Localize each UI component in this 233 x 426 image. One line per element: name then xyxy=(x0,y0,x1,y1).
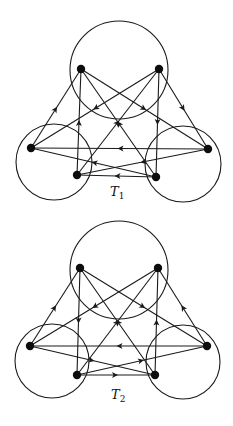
graph-label-subscript: 2 xyxy=(120,394,126,404)
arrowhead-icon xyxy=(91,302,99,310)
arrowhead-icon xyxy=(139,302,147,310)
vertex-d xyxy=(73,371,81,379)
vertex-e xyxy=(152,173,160,181)
graph-t2: T2 xyxy=(15,221,220,404)
cluster-circle xyxy=(16,124,92,200)
vertex-f xyxy=(203,342,211,350)
arrowhead-icon xyxy=(140,104,148,112)
arrowhead-icon xyxy=(179,104,187,112)
graph-t1: T1 xyxy=(16,21,221,202)
arrowhead-icon xyxy=(50,304,58,312)
vertex-b xyxy=(154,264,162,272)
vertex-c xyxy=(26,342,34,350)
arrowhead-icon xyxy=(51,105,59,113)
cluster-circle xyxy=(70,221,168,319)
graph-label-subscript: 1 xyxy=(119,191,125,201)
vertex-a xyxy=(76,264,84,272)
vertex-e xyxy=(151,371,159,379)
vertex-b xyxy=(155,65,163,73)
cluster-circle xyxy=(146,325,220,399)
tournament-figure: T1 T2 xyxy=(0,0,233,426)
vertex-d xyxy=(73,171,81,179)
vertex-a xyxy=(77,65,85,73)
graph-label: T2 xyxy=(111,387,125,404)
vertex-c xyxy=(27,144,35,152)
arrowhead-icon xyxy=(179,304,187,312)
graph-label: T1 xyxy=(110,184,124,201)
vertex-f xyxy=(204,145,212,153)
